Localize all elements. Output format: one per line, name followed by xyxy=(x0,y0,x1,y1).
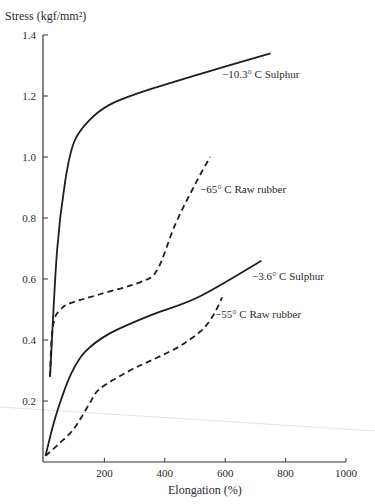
x-tick-label: 800 xyxy=(277,467,294,479)
scan-artifact-line xyxy=(0,407,375,431)
y-tick-label: 0.4 xyxy=(22,334,36,346)
y-tick-label: 0.6 xyxy=(22,273,36,285)
series-label-0: −10.3° C Sulphur xyxy=(222,68,300,80)
y-axis-label: Stress (kgf/mm²) xyxy=(5,9,86,23)
series-lines xyxy=(46,53,271,456)
series-line-2 xyxy=(46,261,262,456)
series-labels: −10.3° C Sulphur−65° C Raw rubber−3.6° C… xyxy=(200,68,324,320)
x-axis-label: Elongation (%) xyxy=(168,483,242,497)
y-tick-label: 0.2 xyxy=(22,395,36,407)
series-label-3: −55° C Raw rubber xyxy=(215,308,301,320)
series-line-1 xyxy=(50,157,210,377)
x-tick-label: 400 xyxy=(157,467,174,479)
series-label-1: −65° C Raw rubber xyxy=(200,183,286,195)
y-tick-label: 1.4 xyxy=(22,29,36,41)
series-line-3 xyxy=(46,297,223,456)
y-tick-label: 1.2 xyxy=(22,90,36,102)
stress-elongation-chart: Stress (kgf/mm²) Elongation (%) 0.20.40.… xyxy=(0,0,375,504)
x-tick-label: 1000 xyxy=(335,467,358,479)
x-tick-label: 200 xyxy=(96,467,113,479)
series-label-2: −3.6° C Sulphur xyxy=(252,270,324,282)
series-line-0 xyxy=(50,53,270,376)
x-tick-label: 600 xyxy=(217,467,234,479)
y-tick-label: 1.0 xyxy=(22,151,36,163)
y-tick-label: 0.8 xyxy=(22,212,36,224)
